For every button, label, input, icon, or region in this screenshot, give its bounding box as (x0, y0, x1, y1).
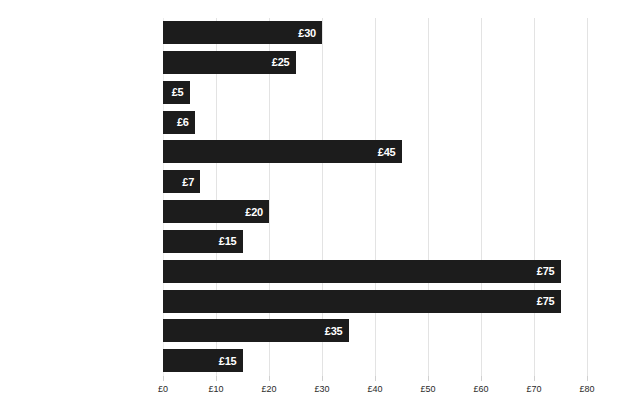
x-tick-label: £60 (473, 384, 488, 394)
bar: £20 (163, 200, 269, 223)
bar-value-label: £15 (219, 235, 237, 247)
gridline (587, 18, 588, 376)
bar-value-label: £35 (325, 325, 343, 337)
bar-row: Fit a water efficient shower head£45 (163, 137, 587, 167)
x-axis: £0£10£20£30£40£50£60£70£80 (163, 376, 587, 406)
bar-row: Install chimney draught excluder£15 (163, 227, 587, 257)
bar-value-label: £15 (219, 355, 237, 367)
x-tick-label: £30 (314, 384, 329, 394)
bar: £45 (163, 140, 402, 163)
bar-value-label: £75 (537, 295, 555, 307)
x-tick-mark (322, 376, 323, 381)
x-tick-label: £70 (526, 384, 541, 394)
bar: £25 (163, 51, 296, 74)
x-tick-mark (375, 376, 376, 381)
x-tick-mark (269, 376, 270, 381)
bar: £15 (163, 349, 243, 372)
bar: £75 (163, 290, 561, 313)
x-tick-label: £10 (208, 384, 223, 394)
bar-value-label: £45 (378, 146, 396, 158)
bar-chart: Switch off standby£30Use a bowl for wash… (0, 0, 623, 419)
bar: £5 (163, 81, 190, 104)
bar-row: Switch off standby£30 (163, 18, 587, 48)
x-tick-label: £0 (158, 384, 168, 394)
bar: £30 (163, 21, 322, 44)
x-tick-label: £40 (367, 384, 382, 394)
bar: £6 (163, 111, 195, 134)
x-tick-mark (481, 376, 482, 381)
plot-area: Switch off standby£30Use a bowl for wash… (163, 18, 587, 376)
x-tick-label: £20 (261, 384, 276, 394)
bar: £15 (163, 230, 243, 253)
bar-row: Use smart heating controls£75 (163, 257, 587, 287)
bar-value-label: £25 (272, 56, 290, 68)
x-tick-label: £80 (579, 384, 594, 394)
bar-row: Turn your thermostat down one degree£75 (163, 287, 587, 317)
bar-row: Only fill the kettle with what you need£… (163, 108, 587, 138)
bar-value-label: £6 (177, 116, 189, 128)
bar: £35 (163, 319, 349, 342)
bar-row: Draught proof doors and windows£20 (163, 197, 587, 227)
bar-value-label: £5 (172, 86, 184, 98)
bar-value-label: £20 (245, 206, 263, 218)
x-tick-mark (216, 376, 217, 381)
bar-row: Use a bowl for washing up£25 (163, 48, 587, 78)
bar-row: Turn off your lights£15 (163, 346, 587, 376)
bar: £75 (163, 260, 561, 283)
bar-row: Spend one min less in your daily shower£… (163, 167, 587, 197)
x-tick-mark (587, 376, 588, 381)
bar-value-label: £75 (537, 265, 555, 277)
x-tick-mark (428, 376, 429, 381)
bar-value-label: £7 (182, 176, 194, 188)
x-tick-mark (163, 376, 164, 381)
x-tick-label: £50 (420, 384, 435, 394)
bar: £7 (163, 170, 200, 193)
bar-row: Do one less wash a week£5 (163, 78, 587, 108)
bar-value-label: £30 (298, 27, 316, 39)
bar-row: Replace all bulbs with LEDs£35 (163, 316, 587, 346)
x-tick-mark (534, 376, 535, 381)
